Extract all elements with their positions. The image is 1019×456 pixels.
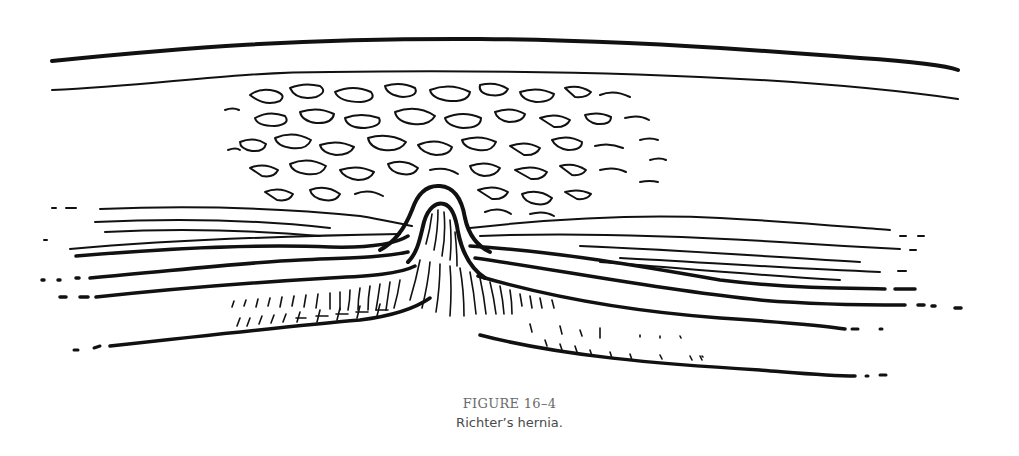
- subcutaneous-boundary: [52, 71, 958, 99]
- hernia-drawing: [0, 0, 1019, 390]
- figure-caption-text: Richter’s hernia.: [456, 415, 563, 430]
- left-lower-dashes: [74, 346, 100, 350]
- fat-lobules: [225, 84, 666, 216]
- right-lower-line: [480, 335, 855, 376]
- left-peritoneum: [90, 252, 408, 278]
- right-peritoneum-dashes: [918, 305, 961, 308]
- figure-caption: Richter’s hernia.: [0, 415, 1019, 430]
- left-bowel-wall: [96, 266, 415, 297]
- left-fascia: [44, 207, 412, 249]
- figure-label-text: FIGURE 16–4: [463, 396, 557, 411]
- figure: FIGURE 16–4 Richter’s hernia.: [0, 0, 1019, 456]
- skin-line: [52, 39, 958, 70]
- figure-label: FIGURE 16–4: [0, 396, 1019, 411]
- right-lower-dashes: [866, 375, 886, 376]
- hernia-illustration: [0, 0, 1019, 390]
- left-lower-line: [110, 298, 430, 346]
- right-fascia: [470, 216, 924, 280]
- bowel-hatching: [232, 210, 703, 360]
- left-dashes-peritoneum: [42, 278, 79, 280]
